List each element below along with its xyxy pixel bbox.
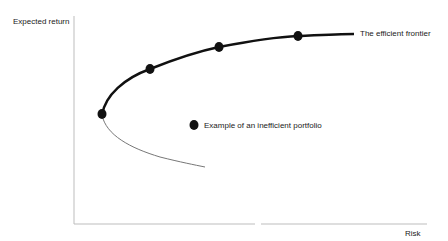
efficient-frontier-curve xyxy=(102,34,354,115)
frontier-marker xyxy=(215,42,224,52)
y-axis-label: Expected return xyxy=(13,17,69,26)
frontier-marker xyxy=(294,31,303,41)
lower-branch-curve xyxy=(102,115,205,167)
inefficient-portfolio-marker xyxy=(190,120,199,130)
frontier-label: The efficient frontier xyxy=(360,29,431,38)
x-axis-label: Risk xyxy=(405,229,421,238)
frontier-marker xyxy=(98,109,107,119)
inefficient-portfolio-label: Example of an inefficient portfolio xyxy=(204,121,322,130)
frontier-marker xyxy=(146,64,155,74)
